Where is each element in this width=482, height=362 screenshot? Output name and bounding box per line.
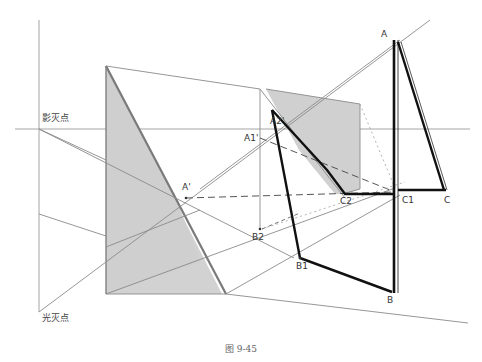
point-b1	[299, 257, 302, 260]
ray-b-extension	[226, 294, 468, 323]
left-shadow-region	[106, 66, 200, 294]
edge-a-c-highlight	[401, 42, 447, 190]
diagram-canvas	[0, 0, 482, 362]
point-b2	[259, 228, 262, 231]
ray-upper-left	[39, 129, 106, 160]
label-c: C	[444, 196, 450, 205]
perspective-shadow-diagram: 影灭点 光灭点 A A' A1' A2' B B1 B2 C C1 C2 图 9…	[0, 0, 482, 362]
figure-caption: 图 9-45	[0, 342, 482, 355]
top-edge	[106, 66, 260, 89]
label-b2: B2	[252, 233, 264, 242]
label-b: B	[387, 296, 393, 305]
light-vanishing-point-label: 光灭点	[42, 314, 69, 323]
edge-a-c	[398, 42, 444, 190]
ray-b1-b	[226, 195, 400, 294]
label-a2: A2'	[270, 117, 284, 126]
ray-lower-left-2	[39, 214, 106, 236]
ray-a1	[200, 40, 400, 189]
label-a-prime: A'	[182, 183, 191, 192]
label-c2: C2	[340, 197, 352, 206]
point-a-prime	[185, 197, 188, 200]
ray-light-vp	[39, 20, 430, 312]
label-c1: C1	[402, 196, 414, 205]
label-b1: B1	[296, 262, 308, 271]
label-a1: A1'	[244, 134, 258, 143]
dotted-c1-up	[360, 104, 395, 188]
shadow-vanishing-point-label: 影灭点	[42, 114, 69, 123]
label-a: A	[381, 30, 387, 39]
